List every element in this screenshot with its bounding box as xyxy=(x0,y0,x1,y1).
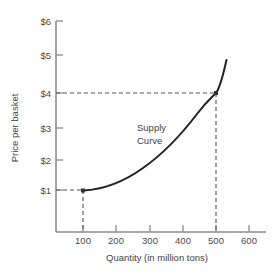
x-tick-label-100: 100 xyxy=(75,235,91,246)
marker-high-point xyxy=(214,91,218,95)
x-tick-label-300: 300 xyxy=(142,235,158,246)
x-tick-label-500: 500 xyxy=(208,235,224,246)
x-tick-label-400: 400 xyxy=(175,235,191,246)
supply-curve-label-line1: Supply xyxy=(137,122,166,133)
x-axis-tick-labels: 100 200 300 400 500 600 xyxy=(75,235,257,246)
x-tick-label-200: 200 xyxy=(108,235,124,246)
y-tick-label-5: $5 xyxy=(40,50,51,61)
y-axis-title: Price per basket xyxy=(9,93,20,162)
y-axis-tick-labels: $6 $5 $4 $3 $2 $1 xyxy=(40,16,51,196)
y-tick-label-4: $4 xyxy=(40,88,51,99)
y-tick-label-2: $2 xyxy=(40,155,51,166)
y-tick-label-6: $6 xyxy=(40,16,51,27)
x-tick-label-600: 600 xyxy=(241,235,257,246)
guide-lines xyxy=(56,93,216,232)
supply-curve-label: Supply Curve xyxy=(137,122,166,146)
chart-canvas: $6 $5 $4 $3 $2 $1 100 200 300 400 500 60… xyxy=(0,0,274,273)
y-axis-ticks xyxy=(56,21,63,190)
x-axis-title: Quantity (in million tons) xyxy=(106,252,208,263)
supply-curve-label-line2: Curve xyxy=(137,135,162,146)
y-tick-label-1: $1 xyxy=(40,185,51,196)
y-tick-label-3: $3 xyxy=(40,123,51,134)
supply-curve-chart: $6 $5 $4 $3 $2 $1 100 200 300 400 500 60… xyxy=(0,0,274,273)
x-axis-ticks xyxy=(83,225,249,232)
marker-low-point xyxy=(81,189,85,193)
